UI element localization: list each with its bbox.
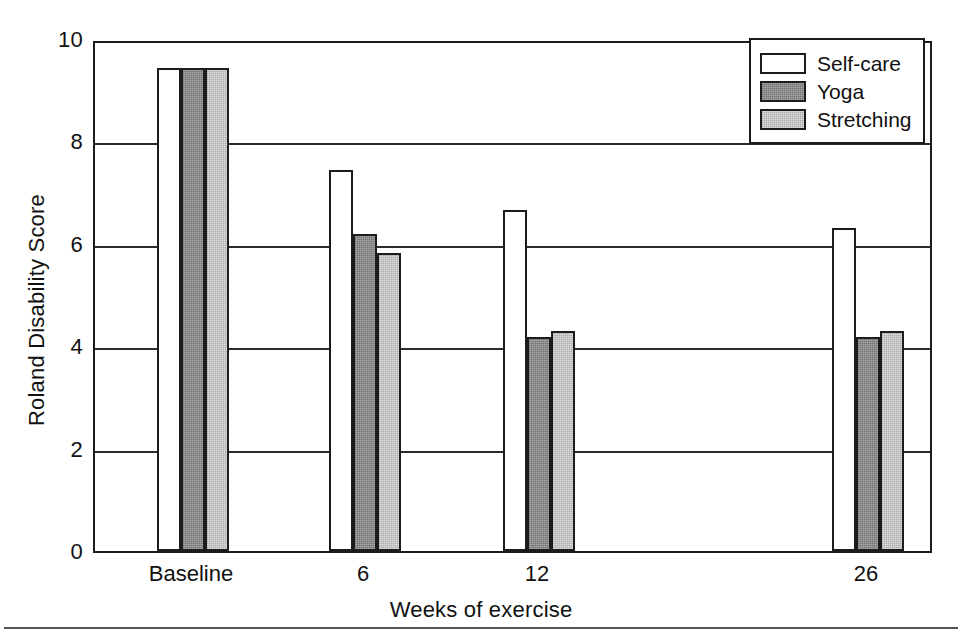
bottom-divider bbox=[4, 627, 958, 629]
bar-stretching bbox=[880, 331, 904, 551]
figure-canvas: 0246810 Roland Disability Score Baseline… bbox=[0, 0, 962, 641]
x-axis-tick-label: 12 bbox=[437, 562, 637, 586]
legend-swatch-selfcare bbox=[760, 53, 806, 74]
legend-item: Self-care bbox=[760, 49, 913, 77]
bar-yoga bbox=[856, 337, 880, 551]
x-axis-tick-label: Baseline bbox=[91, 562, 291, 586]
bar-yoga bbox=[527, 337, 551, 551]
x-axis-tick-label: 26 bbox=[766, 562, 962, 586]
legend-label: Self-care bbox=[817, 53, 901, 74]
y-axis-tick-label: 0 bbox=[43, 541, 83, 563]
bar-yoga bbox=[353, 234, 377, 551]
legend-item: Yoga bbox=[760, 77, 913, 105]
bar-stretching bbox=[377, 253, 401, 551]
legend-item: Stretching bbox=[760, 105, 913, 133]
bar-selfcare bbox=[503, 210, 527, 551]
x-axis-tick-label: 6 bbox=[263, 562, 463, 586]
bar-selfcare bbox=[832, 228, 856, 551]
y-axis-tick-label: 10 bbox=[43, 29, 83, 51]
y-axis-title: Roland Disability Score bbox=[24, 140, 50, 480]
legend-label: Stretching bbox=[817, 109, 912, 130]
legend-swatch-yoga bbox=[760, 81, 806, 102]
bar-stretching bbox=[205, 68, 229, 551]
bar-yoga bbox=[181, 68, 205, 551]
legend-swatch-stretching bbox=[760, 109, 806, 130]
bar-stretching bbox=[551, 331, 575, 551]
legend: Self-careYogaStretching bbox=[749, 38, 925, 144]
bar-selfcare bbox=[157, 68, 181, 551]
x-axis-title: Weeks of exercise bbox=[0, 597, 962, 623]
bar-selfcare bbox=[329, 170, 353, 551]
legend-label: Yoga bbox=[817, 81, 864, 102]
